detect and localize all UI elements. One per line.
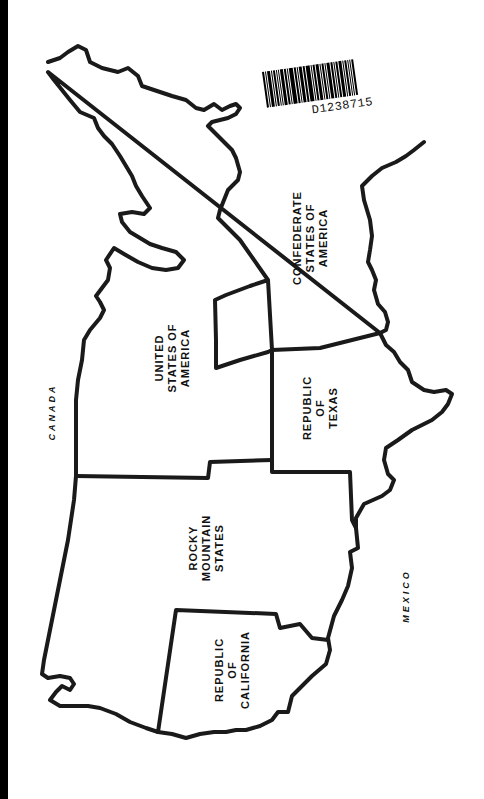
neighbor-label-mexico: MEXICO [400,569,413,623]
border-usa-rocky [76,460,272,478]
neighbor-label-canada: CANADA [46,384,59,441]
region-label-csa: CONFEDERATE STATES OF AMERICA [291,191,330,285]
region-label-california: REPUBLIC OF CALIFORNIA [213,631,252,709]
region-label-rocky: ROCKY MOUNTAIN STATES [187,515,226,581]
region-label-usa: UNITED STATES OF AMERICA [153,323,192,392]
region-label-texas: REPUBLIC OF TEXAS [301,376,340,440]
